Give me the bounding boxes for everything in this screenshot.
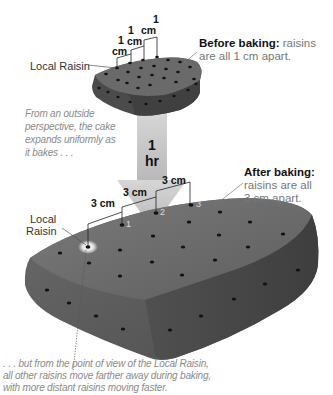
raisin-number-2: 2 xyxy=(160,207,165,217)
large-cake xyxy=(25,182,319,372)
arrow-label-number: 1 xyxy=(142,137,162,153)
outside-caption-line-3: expands uniformly as xyxy=(25,134,116,147)
arrow-label-unit: hr xyxy=(138,153,166,169)
after-distance-label-2: 3 cm xyxy=(123,187,147,198)
distance-label-2-unit: cm xyxy=(127,36,142,47)
inside-caption-line-2: all other raisins move farther away duri… xyxy=(3,370,211,383)
outside-caption-line-2: perspective, the cake xyxy=(25,121,115,134)
before-baking-heading: Before baking: raisins xyxy=(199,37,316,50)
outside-caption-line-4: it bakes . . . xyxy=(25,147,73,160)
after-distance-label-1: 3 cm xyxy=(91,198,115,209)
before-baking-line2: are all 1 cm apart. xyxy=(199,50,291,63)
local-raisin-label-after-line2: Raisin xyxy=(26,225,57,238)
inside-caption-line-1: . . . but from the point of view of the … xyxy=(3,358,209,371)
raisin-number-1: 1 xyxy=(126,219,131,229)
raisin-number-3: 3 xyxy=(196,199,201,209)
distance-label-3-unit: cm xyxy=(141,25,156,36)
after-distance-label-3: 3 cm xyxy=(162,175,186,186)
local-raisin-label-before: Local Raisin xyxy=(30,60,90,73)
outside-caption-line-1: From an outside xyxy=(25,108,94,121)
raisin-cake-diagram: 1 cm 1 cm 1 cm Local Raisin Before bakin… xyxy=(0,0,333,395)
small-cake xyxy=(88,37,201,116)
after-baking-line3: 3 cm apart. xyxy=(244,192,302,205)
distance-label-1-unit: cm xyxy=(112,46,127,57)
inside-caption-line-3: with more distant raisins moving faster. xyxy=(3,382,167,395)
before-baking-rest: raisins xyxy=(283,37,316,49)
after-baking-heading: After baking: xyxy=(244,166,315,179)
after-baking-line2: raisins are all xyxy=(244,179,312,192)
before-baking-bold: Before baking: xyxy=(199,37,280,49)
